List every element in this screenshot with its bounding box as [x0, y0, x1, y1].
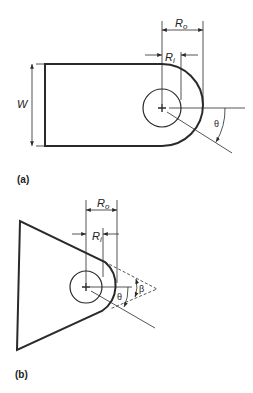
figure-b	[17, 200, 157, 350]
label-ri-a: Ri	[165, 51, 175, 65]
label-theta-a: θ	[214, 119, 219, 129]
label-ro-a: Ro	[175, 17, 188, 31]
label-ro-b: Ro	[97, 197, 110, 211]
center-mark-b	[82, 283, 90, 291]
label-theta-b: θ	[117, 292, 122, 302]
label-w: W	[17, 98, 29, 110]
figure-a	[32, 21, 245, 153]
caption-a: (a)	[17, 174, 29, 185]
lug-diagram: Ro Ri W θ (a) Ro Ri θ β (b)	[0, 0, 253, 393]
center-mark-a	[158, 104, 166, 112]
lug-outline-a	[45, 64, 203, 146]
caption-b: (b)	[15, 369, 28, 380]
label-ri-b: Ri	[92, 230, 102, 244]
label-beta-b: β	[139, 284, 144, 294]
